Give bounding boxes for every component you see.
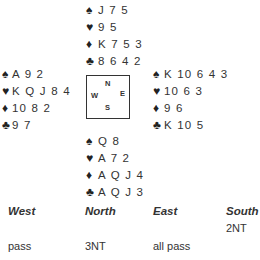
- bidding-header-north: North: [85, 205, 116, 217]
- south-spades-row: ♠Q 8: [86, 133, 144, 150]
- east-spades-row: ♠K 10 6 4 3: [153, 66, 228, 83]
- club-icon: ♣: [153, 117, 164, 134]
- north-hand: ♠J 7 5 ♥9 5 ♦K 7 5 3 ♣8 6 4 2: [86, 2, 143, 70]
- north-diamonds-row: ♦K 7 5 3: [86, 36, 143, 53]
- diamond-icon: ♦: [2, 100, 12, 117]
- south-hearts-row: ♥A 7 2: [86, 150, 144, 167]
- bid-round1-south: 2NT: [226, 222, 247, 234]
- heart-icon: ♥: [153, 83, 164, 100]
- east-clubs: K 10 5: [164, 119, 204, 131]
- south-spades: Q 8: [98, 135, 120, 147]
- west-spades-row: ♠A 9 2: [2, 66, 71, 83]
- compass-east: E: [120, 90, 125, 98]
- south-diamonds-row: ♦A Q J 4: [86, 167, 144, 184]
- south-clubs: A Q J 3: [98, 186, 144, 198]
- diamond-icon: ♦: [86, 167, 98, 184]
- diamond-icon: ♦: [86, 36, 98, 53]
- east-hand: ♠K 10 6 4 3 ♥10 6 3 ♦9 6 ♣K 10 5: [153, 66, 228, 134]
- south-diamonds: A Q J 4: [98, 169, 144, 181]
- west-hearts: K Q J 8 4: [12, 85, 71, 97]
- compass-box: N W E S: [86, 75, 130, 119]
- north-hearts: 9 5: [98, 21, 118, 33]
- bidding-header-east: East: [153, 205, 177, 217]
- north-clubs: 8 6 4 2: [98, 55, 142, 67]
- heart-icon: ♥: [2, 83, 12, 100]
- bid-round2-east: all pass: [153, 240, 190, 252]
- west-diamonds: 10 8 2: [12, 102, 51, 114]
- west-diamonds-row: ♦10 8 2: [2, 100, 71, 117]
- east-hearts-row: ♥10 6 3: [153, 83, 228, 100]
- heart-icon: ♥: [86, 19, 98, 36]
- spade-icon: ♠: [153, 66, 164, 83]
- north-spades: J 7 5: [98, 4, 129, 16]
- south-clubs-row: ♣A Q J 3: [86, 184, 144, 201]
- heart-icon: ♥: [86, 150, 98, 167]
- spade-icon: ♠: [86, 2, 98, 19]
- compass-north: N: [105, 80, 110, 88]
- bidding-header-west: West: [8, 205, 35, 217]
- west-hand: ♠A 9 2 ♥K Q J 8 4 ♦10 8 2 ♣9 7: [2, 66, 71, 134]
- east-diamonds: 9 6: [164, 102, 184, 114]
- club-icon: ♣: [86, 53, 98, 70]
- north-diamonds: K 7 5 3: [98, 38, 143, 50]
- east-hearts: 10 6 3: [164, 85, 203, 97]
- west-spades: A 9 2: [12, 68, 44, 80]
- east-clubs-row: ♣K 10 5: [153, 117, 228, 134]
- club-icon: ♣: [2, 117, 12, 134]
- spade-icon: ♠: [2, 66, 12, 83]
- compass-west: W: [91, 92, 98, 100]
- bidding-header-south: South: [226, 205, 259, 217]
- south-hand: ♠Q 8 ♥A 7 2 ♦A Q J 4 ♣A Q J 3: [86, 133, 144, 201]
- club-icon: ♣: [86, 184, 98, 201]
- spade-icon: ♠: [86, 133, 98, 150]
- north-spades-row: ♠J 7 5: [86, 2, 143, 19]
- south-hearts: A 7 2: [98, 152, 130, 164]
- diamond-icon: ♦: [153, 100, 164, 117]
- west-hearts-row: ♥K Q J 8 4: [2, 83, 71, 100]
- bid-round2-north: 3NT: [85, 240, 106, 252]
- north-clubs-row: ♣8 6 4 2: [86, 53, 143, 70]
- north-hearts-row: ♥9 5: [86, 19, 143, 36]
- bid-round2-west: pass: [8, 240, 31, 252]
- west-clubs-row: ♣9 7: [2, 117, 71, 134]
- west-clubs: 9 7: [12, 119, 32, 131]
- east-spades: K 10 6 4 3: [164, 68, 228, 80]
- east-diamonds-row: ♦9 6: [153, 100, 228, 117]
- compass-south: S: [105, 104, 110, 112]
